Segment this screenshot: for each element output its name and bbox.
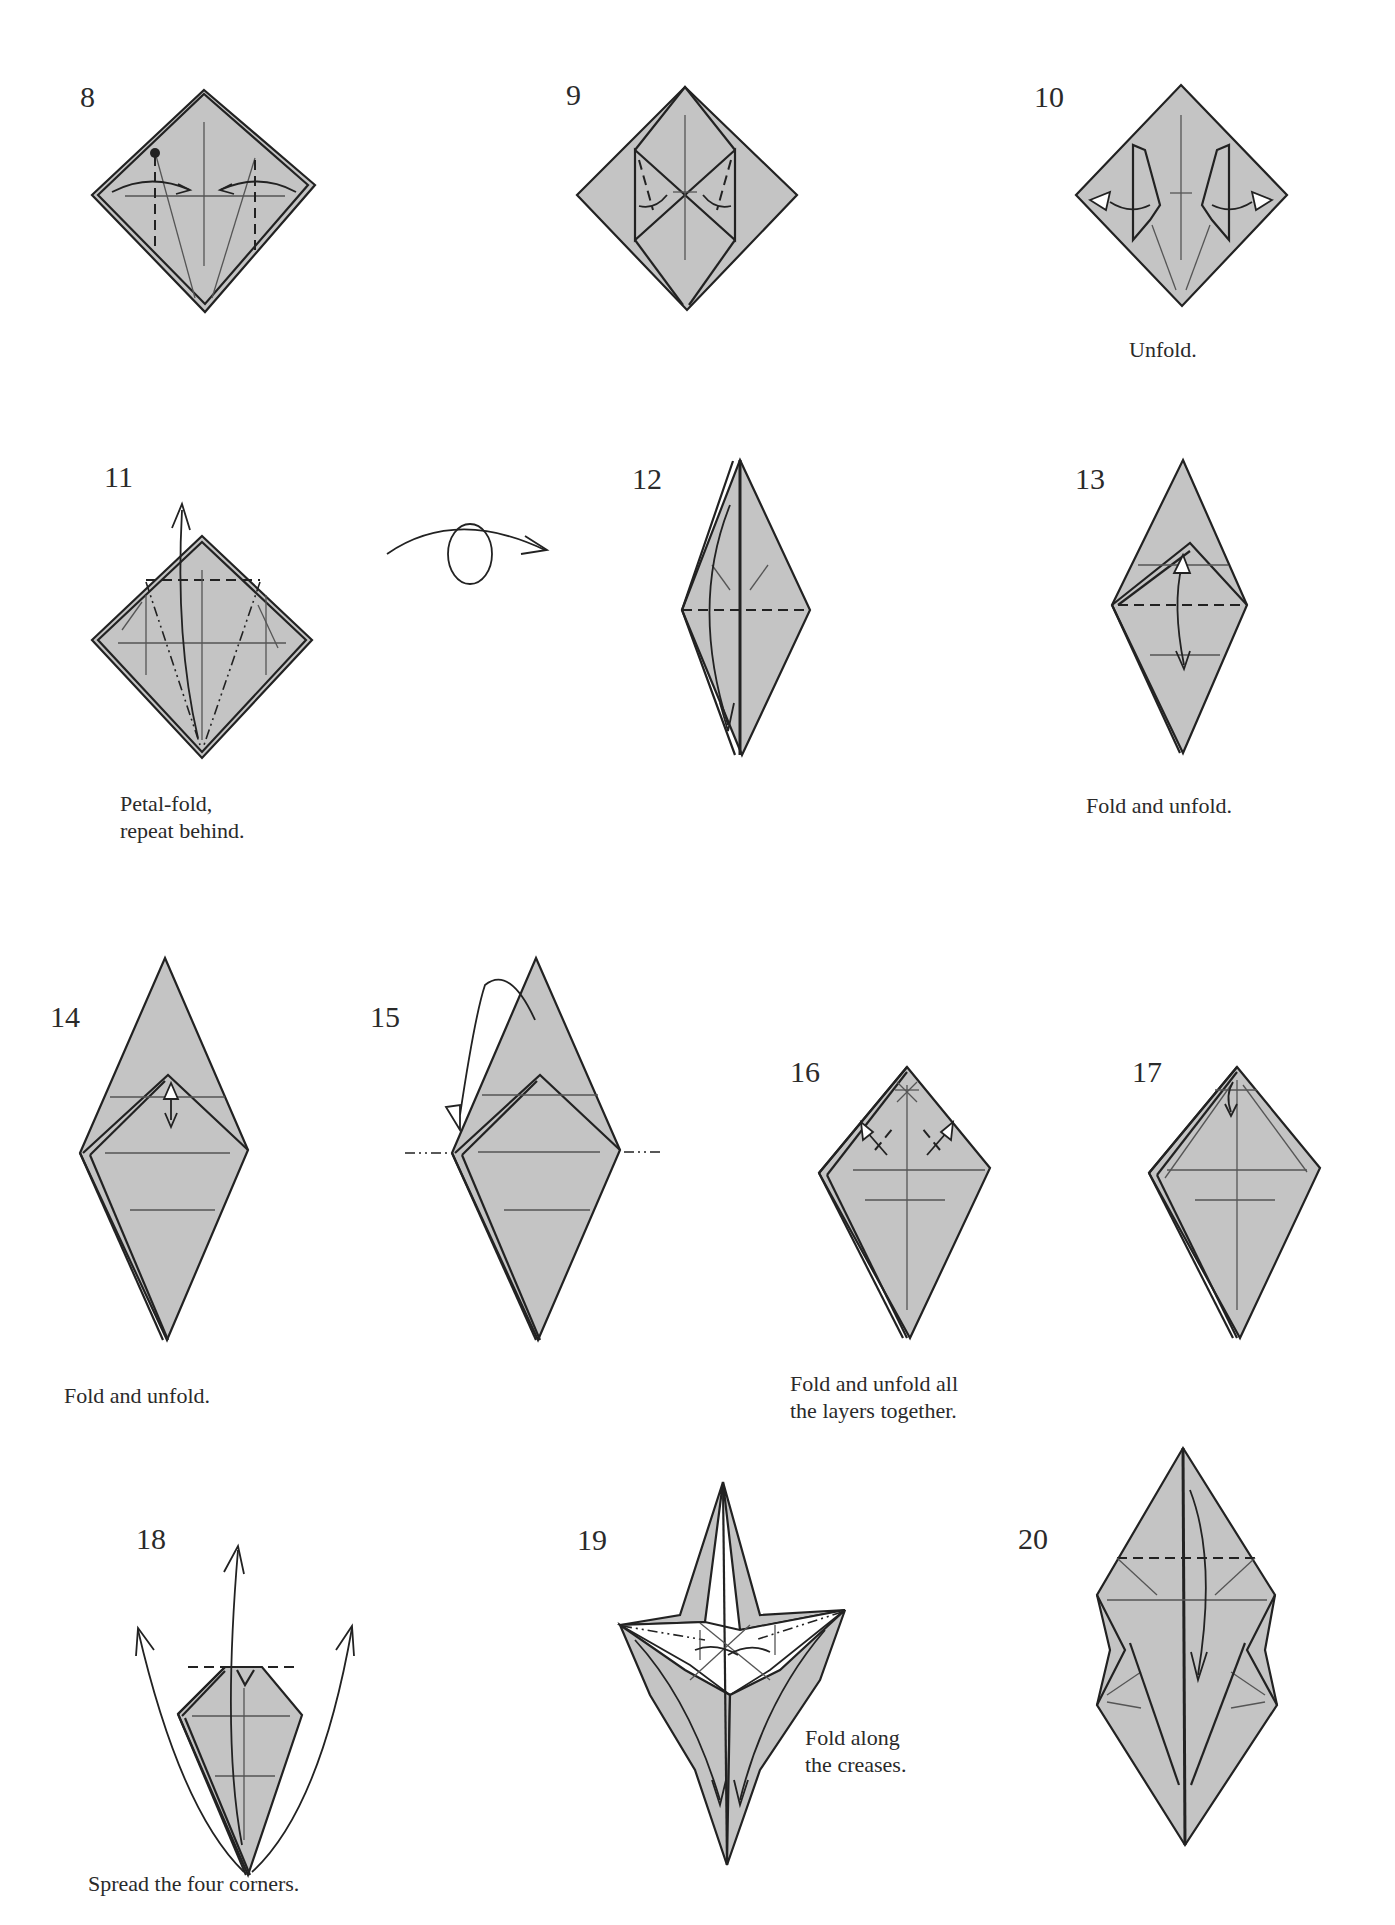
step-10-number: 10: [1034, 80, 1064, 114]
turn-over-icon: [385, 512, 555, 592]
step-10-caption: Unfold.: [1129, 336, 1197, 363]
step-16-caption: Fold and unfold all the layers together.: [790, 1370, 958, 1424]
step-19-caption: Fold along the creases.: [805, 1724, 906, 1778]
step-20-number: 20: [1018, 1522, 1048, 1556]
step-11-number: 11: [104, 460, 133, 494]
step-9-diagram: [575, 80, 815, 320]
step-12-diagram: [680, 455, 820, 765]
step-18-caption: Spread the four corners.: [88, 1870, 299, 1897]
step-11-diagram: [80, 490, 320, 770]
step-13-diagram: [1110, 455, 1260, 755]
step-17-diagram: [1145, 1060, 1325, 1350]
reference-dot-icon: [150, 148, 160, 158]
step-14-caption: Fold and unfold.: [64, 1382, 210, 1409]
step-11-caption: Petal-fold, repeat behind.: [120, 790, 245, 844]
step-15-diagram: [400, 955, 670, 1355]
step-10-diagram: [1070, 80, 1310, 320]
step-15-number: 15: [370, 1000, 400, 1034]
step-20-diagram: [1095, 1440, 1285, 1850]
step-13-number: 13: [1075, 462, 1105, 496]
step-16-diagram: [815, 1060, 995, 1350]
step-19-diagram: [590, 1470, 860, 1900]
step-8-diagram: [60, 80, 320, 320]
step-14-diagram: [75, 955, 255, 1355]
step-18-diagram: [130, 1540, 370, 1870]
step-13-caption: Fold and unfold.: [1086, 792, 1232, 819]
step-12-number: 12: [632, 462, 662, 496]
